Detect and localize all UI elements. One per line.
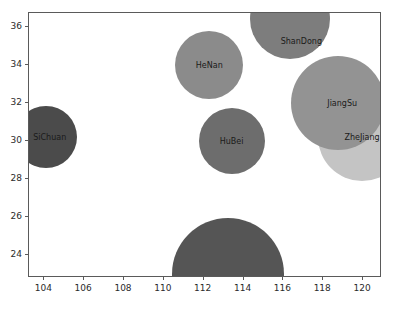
bubble-label-shandong: ShanDong: [281, 37, 322, 46]
y-tick-label: 30: [6, 135, 22, 145]
x-tick-label: 112: [194, 283, 211, 293]
x-tick-mark: [322, 277, 323, 280]
y-tick-label: 28: [6, 173, 22, 183]
bubble-label-sichuan: SiChuan: [33, 133, 66, 142]
x-tick-mark: [83, 277, 84, 280]
x-tick-mark: [243, 277, 244, 280]
x-tick-mark: [362, 277, 363, 280]
y-tick-mark: [25, 254, 28, 255]
x-tick-label: 116: [274, 283, 291, 293]
bubble-guangdong[interactable]: [172, 218, 284, 277]
x-tick-mark: [203, 277, 204, 280]
x-tick-label: 114: [234, 283, 251, 293]
y-tick-mark: [25, 102, 28, 103]
y-tick-mark: [25, 216, 28, 217]
y-tick-label: 34: [6, 59, 22, 69]
y-tick-mark: [25, 140, 28, 141]
x-tick-label: 120: [353, 283, 370, 293]
y-tick-label: 26: [6, 211, 22, 221]
x-tick-label: 106: [75, 283, 92, 293]
bubble-label-jiangsu: JiangSu: [327, 98, 357, 107]
x-tick-mark: [43, 277, 44, 280]
x-tick-label: 108: [114, 283, 131, 293]
x-tick-mark: [282, 277, 283, 280]
y-tick-mark: [25, 64, 28, 65]
x-tick-label: 104: [35, 283, 52, 293]
y-tick-mark: [25, 178, 28, 179]
y-tick-mark: [25, 26, 28, 27]
x-tick-mark: [123, 277, 124, 280]
bubble-label-zhejiang: ZheJiang: [345, 133, 380, 142]
y-tick-label: 36: [6, 21, 22, 31]
plot-area: SiChuanHeNanShanDongHuBeiJiangSuZheJiang…: [28, 12, 381, 277]
bubble-label-henan: HeNan: [196, 60, 223, 69]
x-tick-label: 110: [154, 283, 171, 293]
x-tick-label: 118: [314, 283, 331, 293]
bubble-label-hubei: HuBei: [220, 136, 244, 145]
bubble-chart-figure: SiChuanHeNanShanDongHuBeiJiangSuZheJiang…: [0, 0, 401, 312]
y-tick-label: 24: [6, 249, 22, 259]
bubble-shandong[interactable]: [250, 12, 330, 59]
x-tick-mark: [163, 277, 164, 280]
y-tick-label: 32: [6, 97, 22, 107]
